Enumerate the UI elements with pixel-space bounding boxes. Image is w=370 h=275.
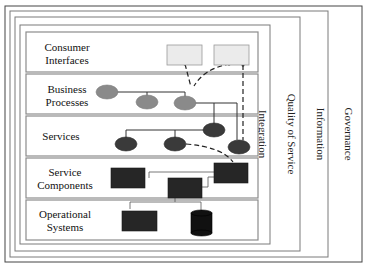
- layer-label-line1: Business: [47, 83, 86, 95]
- layer-label-line2: Components: [37, 179, 93, 191]
- layer-label-line1: Service: [49, 166, 82, 178]
- layer-services: Services: [26, 116, 258, 156]
- governance-label: Governance: [343, 107, 355, 160]
- consumer-interface-box: [214, 45, 249, 65]
- layer-label-line1: Operational: [39, 208, 91, 220]
- service-component-box: [111, 168, 145, 188]
- service-node: [228, 140, 250, 154]
- consumer-interface-box: [167, 45, 202, 65]
- service-component-box: [214, 163, 248, 183]
- integration-label: Integration: [257, 110, 269, 159]
- service-node: [164, 137, 186, 151]
- service-node: [203, 123, 225, 137]
- layer-label-line2: Processes: [46, 96, 89, 108]
- service-component-box: [168, 178, 202, 198]
- database-icon: [191, 210, 212, 236]
- business-process-node: [136, 95, 158, 109]
- layer-label-line2: Interfaces: [45, 54, 88, 66]
- information-label: Information: [315, 108, 327, 161]
- business-process-node: [96, 85, 118, 99]
- layer-label-line2: Systems: [47, 221, 84, 233]
- business-process-node: [174, 96, 196, 110]
- layer-label-line1: Services: [42, 130, 79, 142]
- service-node: [115, 137, 137, 151]
- architecture-diagram: Governance Information Quality of Servic…: [0, 0, 370, 275]
- layer-label-line1: Consumer: [44, 41, 90, 53]
- quality-of-service-label: Quality of Service: [286, 94, 298, 175]
- operational-system-box: [122, 211, 157, 231]
